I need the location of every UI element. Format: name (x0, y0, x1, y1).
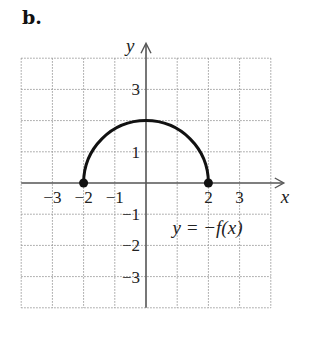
x-tick-label: −3 (43, 188, 61, 207)
y-tick-label: 1 (132, 143, 141, 162)
x-tick-label: −1 (106, 188, 124, 207)
tick-labels: −3−2−12331−1−2−3xyy = −f(x) (43, 35, 289, 286)
endpoint-dot (204, 179, 213, 188)
y-axis-label: y (124, 35, 135, 56)
x-axis-label: x (280, 186, 290, 207)
y-tick-label: 3 (132, 80, 141, 99)
x-tick-label: 2 (204, 188, 213, 207)
y-tick-label: −2 (122, 236, 140, 255)
y-tick-label: −3 (122, 268, 140, 287)
endpoint-dot (79, 179, 88, 188)
x-tick-label: 3 (235, 188, 244, 207)
x-tick-label: −2 (75, 188, 93, 207)
axes (21, 43, 284, 308)
equation-label: y = −f(x) (171, 217, 243, 239)
graph: −3−2−12331−1−2−3xyy = −f(x) (0, 0, 312, 340)
y-tick-label: −1 (122, 205, 140, 224)
